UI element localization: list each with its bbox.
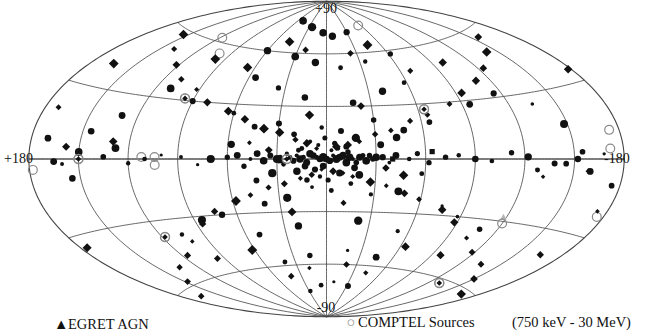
- source-marker-diamond: [347, 50, 354, 57]
- sky-map-figure: [0, 0, 647, 334]
- source-marker-square: [430, 149, 435, 154]
- source-marker-circle: [241, 164, 246, 169]
- source-marker-circle: [379, 88, 386, 95]
- source-marker-circle: [380, 154, 386, 160]
- source-marker-circle: [69, 175, 76, 182]
- source-marker-diamond: [438, 205, 446, 213]
- source-marker-diamond: [541, 174, 546, 179]
- source-marker-diamond: [285, 37, 295, 47]
- source-marker-diamond: [343, 261, 350, 268]
- source-marker-circle: [254, 178, 260, 184]
- source-marker-circle: [219, 212, 225, 218]
- source-marker-circle: [419, 171, 424, 176]
- axis-label-east: -180: [604, 151, 630, 167]
- source-marker-circle: [308, 289, 313, 294]
- source-marker-circle: [326, 177, 331, 182]
- source-marker-circle: [50, 158, 57, 165]
- source-marker-diamond: [363, 40, 373, 50]
- source-marker-circle: [167, 85, 175, 93]
- source-marker-circle: [535, 167, 540, 172]
- source-marker-diamond: [357, 102, 365, 110]
- source-marker-circle: [363, 59, 367, 63]
- source-marker-circle: [264, 47, 271, 54]
- source-marker-diamond: [382, 164, 390, 172]
- source-marker-circle: [262, 201, 268, 207]
- source-marker-circle: [196, 163, 199, 166]
- source-marker-diamond: [407, 68, 413, 74]
- source-marker-diamond: [307, 266, 312, 271]
- source-marker-diamond: [298, 176, 303, 181]
- source-marker-diamond: [243, 63, 252, 72]
- source-marker-circle: [160, 153, 163, 156]
- source-marker-diamond: [340, 200, 346, 206]
- source-marker-circle: [249, 157, 253, 161]
- source-marker-diamond: [363, 270, 368, 275]
- source-marker-circle: [351, 164, 358, 171]
- source-marker-circle: [427, 119, 433, 125]
- source-marker-circle: [304, 177, 309, 182]
- source-marker-diamond: [288, 208, 297, 217]
- source-marker-circle: [354, 216, 362, 224]
- source-marker-circle: [319, 125, 323, 129]
- source-marker-diamond: [241, 115, 250, 124]
- source-marker-circle: [346, 249, 349, 252]
- source-marker-circle: [276, 121, 282, 127]
- source-marker-diamond: [176, 264, 182, 270]
- source-marker-circle: [396, 229, 400, 233]
- source-marker-circle: [252, 124, 258, 130]
- source-marker-circle: [348, 181, 353, 186]
- source-marker-circle: [283, 194, 291, 202]
- source-marker-diamond: [211, 208, 218, 215]
- source-marker-circle: [318, 174, 322, 178]
- source-marker-circle: [472, 156, 479, 163]
- source-marker-circle: [307, 253, 312, 258]
- source-marker-circle: [296, 148, 301, 153]
- source-marker-circle: [329, 33, 336, 40]
- source-marker-circle: [100, 154, 106, 160]
- comptel-source-open-circle: [592, 213, 601, 222]
- aitoff-projection-plot: [0, 0, 647, 334]
- source-marker-circle: [225, 155, 230, 160]
- source-marker-circle: [575, 156, 581, 162]
- source-marker-diamond: [56, 104, 62, 110]
- source-marker-circle: [402, 80, 407, 85]
- source-marker-circle: [525, 153, 532, 160]
- source-marker-diamond: [372, 131, 378, 137]
- source-marker-diamond: [292, 136, 298, 142]
- legend-label-egret: EGRET AGN: [68, 316, 149, 332]
- source-marker-circle: [400, 127, 407, 134]
- identified-source-core: [162, 234, 168, 240]
- legend-item-comptel: ○COMPTEL Sources: [344, 314, 475, 331]
- source-marker-circle: [254, 150, 261, 157]
- source-marker-diamond: [564, 65, 572, 73]
- source-marker-circle: [490, 159, 495, 164]
- source-marker-diamond: [109, 59, 119, 69]
- source-marker-circle: [373, 254, 380, 261]
- source-marker-diamond: [450, 218, 458, 226]
- source-marker-diamond: [171, 46, 177, 52]
- source-marker-circle: [60, 162, 64, 166]
- source-marker-circle: [299, 17, 307, 25]
- source-marker-circle: [293, 168, 300, 175]
- source-marker-circle: [371, 117, 377, 123]
- legend-item-egret: ▲EGRET AGN: [54, 316, 149, 333]
- source-marker-circle: [291, 132, 297, 138]
- source-marker-diamond: [366, 177, 376, 187]
- source-marker-diamond: [457, 89, 466, 98]
- source-marker-diamond: [469, 249, 476, 256]
- source-marker-diamond: [436, 251, 444, 259]
- source-marker-diamond: [210, 54, 220, 64]
- source-marker-circle: [319, 29, 326, 36]
- source-marker-circle: [552, 161, 558, 167]
- source-marker-diamond: [247, 140, 252, 145]
- source-marker-circle: [343, 29, 349, 35]
- source-marker-circle: [295, 222, 302, 229]
- source-marker-circle: [477, 226, 483, 232]
- source-marker-diamond: [247, 245, 257, 255]
- source-marker-circle: [322, 135, 327, 140]
- source-marker-circle: [260, 157, 268, 165]
- source-marker-circle: [291, 53, 299, 61]
- source-marker-diamond: [482, 47, 492, 57]
- source-marker-circle: [88, 128, 95, 135]
- source-marker-diamond: [265, 184, 271, 190]
